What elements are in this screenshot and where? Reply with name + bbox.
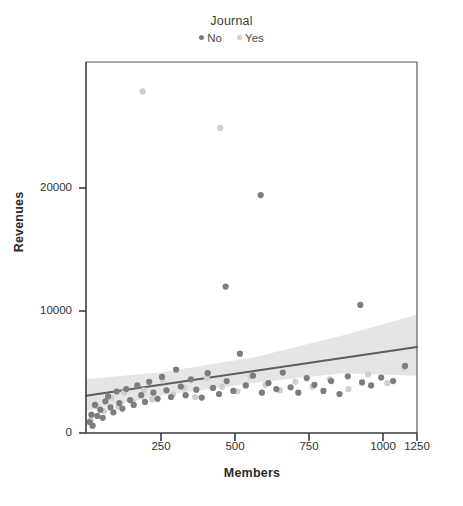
y-axis-title: Revenues [12, 172, 26, 272]
x-tick-750: 750 [279, 440, 339, 452]
x-tick-labels: 250 500 750 1000 1250 [0, 0, 463, 506]
x-axis-title: Members [86, 466, 418, 480]
x-tick-1250: 1250 [387, 440, 447, 452]
x-tick-500: 500 [205, 440, 265, 452]
x-tick-250: 250 [131, 440, 191, 452]
scatter-plot-figure: Journal No Yes [0, 0, 463, 506]
